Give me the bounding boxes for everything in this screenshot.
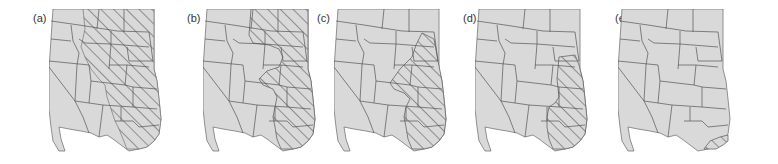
panel-label: (a) (33, 12, 46, 24)
map-panel-c: (c) (310, 0, 465, 164)
us-map (618, 9, 733, 157)
map-panel-a: (a) (0, 0, 155, 164)
panel-label: (b) (187, 12, 200, 24)
panel-label: (c) (317, 12, 330, 24)
us-map (49, 9, 164, 157)
map-panel-d: (d) (463, 0, 618, 164)
map-panel-e: (e) (615, 0, 770, 164)
us-map (203, 9, 318, 157)
us-map (334, 9, 449, 157)
us-map (475, 9, 590, 157)
map-panel-b: (b) (155, 0, 310, 164)
